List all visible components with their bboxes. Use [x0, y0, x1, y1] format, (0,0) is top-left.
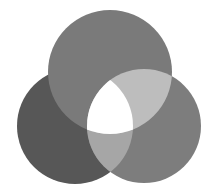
venn-diagram [0, 0, 217, 191]
